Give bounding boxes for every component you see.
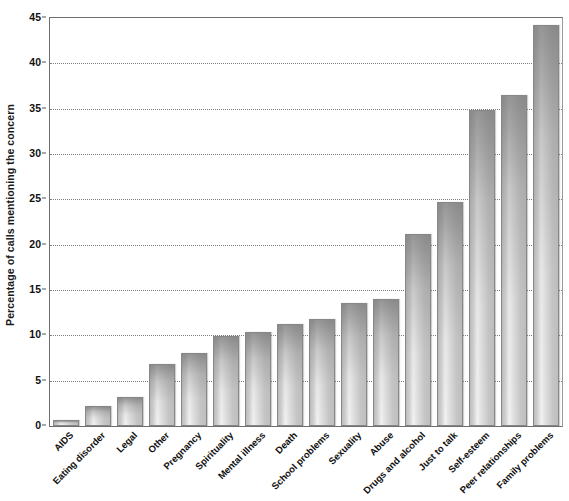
y-axis-tick-labels: 051015202530354045: [20, 0, 46, 440]
y-tick-label: 15: [29, 283, 41, 295]
y-tick-label: 20: [29, 238, 41, 250]
x-tick-label-text: AIDS: [52, 428, 77, 453]
y-tick-label: 5: [35, 374, 41, 386]
y-axis-title-text: Percentage of calls mentioning the conce…: [4, 104, 16, 326]
x-tick-label-text: Family problems: [494, 428, 557, 491]
y-axis-title: Percentage of calls mentioning the conce…: [0, 0, 20, 430]
y-tick-mark: [42, 425, 46, 426]
x-tick-label-text: Abuse: [367, 428, 397, 458]
y-tick-label: 40: [29, 56, 41, 68]
y-tick-mark: [42, 334, 46, 335]
y-tick-mark: [42, 17, 46, 18]
bar: [533, 25, 558, 426]
y-tick-mark: [42, 289, 46, 290]
x-axis-tick-labels: AIDSEating disorderLegalOtherPregnancySp…: [49, 428, 561, 501]
plot-area: [49, 17, 563, 427]
y-tick-mark: [42, 153, 46, 154]
bars-layer: [50, 18, 562, 426]
y-tick-mark: [42, 243, 46, 244]
bar-chart-figure: Percentage of calls mentioning the conce…: [0, 0, 569, 501]
bar: [501, 95, 526, 426]
y-tick-label: 35: [29, 102, 41, 114]
x-tick-label-text: Legal: [114, 428, 141, 455]
y-tick-mark: [42, 198, 46, 199]
x-tick-label-text: Other: [146, 428, 173, 455]
y-tick-label: 25: [29, 192, 41, 204]
y-tick-mark: [42, 107, 46, 108]
y-tick-label: 0: [35, 419, 41, 431]
y-tick-mark: [42, 62, 46, 63]
x-tick-label-text: School problems: [269, 428, 333, 492]
y-tick-label: 10: [29, 328, 41, 340]
bar: [405, 234, 430, 426]
y-tick-mark: [42, 379, 46, 380]
y-tick-label: 45: [29, 11, 41, 23]
x-tick-label-text: Death: [273, 428, 301, 456]
y-tick-label: 30: [29, 147, 41, 159]
